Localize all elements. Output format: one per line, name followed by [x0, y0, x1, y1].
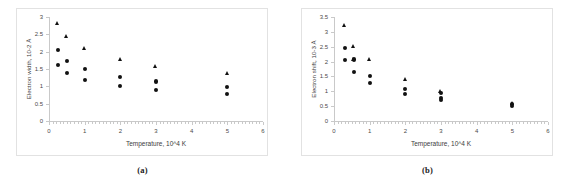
x-axis-minor-tick [213, 122, 214, 124]
x-axis-minor-tick [227, 122, 228, 125]
triangle-marker-icon [225, 71, 229, 75]
x-axis-minor-tick [484, 122, 485, 124]
x-axis-minor-tick [355, 122, 356, 124]
x-axis-minor-tick [420, 122, 421, 124]
circle-marker-icon [65, 71, 69, 75]
x-axis-minor-tick [544, 122, 545, 124]
x-axis-minor-tick [334, 122, 335, 125]
triangle-marker-icon [351, 44, 355, 48]
x-axis-minor-tick [131, 122, 132, 124]
x-axis-minor-tick [199, 122, 200, 124]
x-axis-tick-label: 0 [324, 128, 344, 134]
panel-b-caption: (b) [285, 165, 570, 175]
x-axis-minor-tick [430, 122, 431, 124]
circle-marker-icon [352, 57, 356, 61]
x-axis-minor-tick [363, 122, 364, 124]
x-axis-minor-tick [60, 122, 61, 124]
x-axis-minor-tick [170, 122, 171, 124]
x-axis-label: Temperature, 10^4 K [49, 140, 263, 148]
x-axis-minor-tick [537, 122, 538, 124]
x-axis-minor-tick [380, 122, 381, 124]
panel-b-frame: 00.511.522.533.50123456Temperature, 10^4… [301, 8, 553, 156]
x-axis-tick-label: 2 [110, 128, 130, 134]
x-axis-tick-label: 2 [395, 128, 415, 134]
x-axis-minor-tick [388, 122, 389, 124]
circle-marker-icon [403, 87, 407, 91]
x-axis-minor-tick [181, 122, 182, 124]
x-axis-minor-tick [512, 122, 513, 125]
y-axis-tick [331, 17, 334, 18]
triangle-marker-icon [55, 21, 59, 25]
x-axis-minor-tick [338, 122, 339, 124]
circle-marker-icon [56, 63, 60, 67]
x-axis-minor-tick [81, 122, 82, 124]
x-axis-minor-tick [149, 122, 150, 124]
x-axis-minor-tick [259, 122, 260, 124]
x-axis-minor-tick [53, 122, 54, 124]
panel-b-plot-area: 00.511.522.533.50123456Temperature, 10^4… [334, 17, 548, 121]
x-axis-tick-label: 5 [502, 128, 522, 134]
x-axis-minor-tick [256, 122, 257, 124]
circle-marker-icon [118, 75, 122, 79]
x-axis-minor-tick [509, 122, 510, 124]
x-axis-minor-tick [527, 122, 528, 124]
y-axis-tick [46, 86, 49, 87]
x-axis-minor-tick [192, 122, 193, 125]
panel-a: 00.511.522.530123456Temperature, 10^4 KE… [0, 0, 285, 190]
x-axis-minor-tick [402, 122, 403, 124]
x-axis-minor-tick [263, 122, 264, 125]
x-axis-minor-tick [234, 122, 235, 124]
triangle-marker-icon [82, 46, 86, 50]
y-axis-line [334, 17, 335, 121]
figure-container: 00.511.522.530123456Temperature, 10^4 KE… [0, 0, 571, 190]
x-axis-minor-tick [142, 122, 143, 124]
x-axis-minor-tick [427, 122, 428, 124]
x-axis-minor-tick [391, 122, 392, 124]
x-axis-minor-tick [412, 122, 413, 124]
x-axis-minor-tick [491, 122, 492, 124]
x-axis-minor-tick [352, 122, 353, 124]
x-axis-minor-tick [395, 122, 396, 124]
x-axis-minor-tick [487, 122, 488, 124]
x-axis-minor-tick [377, 122, 378, 124]
x-axis-minor-tick [398, 122, 399, 124]
y-axis-label: Electron width, 10-2 Å [25, 17, 32, 121]
circle-marker-icon [439, 98, 443, 102]
y-axis-tick [331, 91, 334, 92]
x-axis-minor-tick [462, 122, 463, 124]
x-axis-minor-tick [252, 122, 253, 124]
x-axis-minor-tick [224, 122, 225, 124]
y-axis-label: Electron shift, 10-3 Å [310, 17, 317, 121]
x-axis-minor-tick [473, 122, 474, 124]
x-axis-minor-tick [56, 122, 57, 124]
x-axis-minor-tick [519, 122, 520, 124]
x-axis-minor-tick [156, 122, 157, 125]
panel-a-caption: (a) [0, 165, 285, 175]
x-axis-minor-tick [127, 122, 128, 124]
y-axis-tick [331, 32, 334, 33]
x-axis-minor-tick [541, 122, 542, 124]
circle-marker-icon [225, 92, 229, 96]
x-axis-minor-tick [516, 122, 517, 124]
x-axis-minor-tick [495, 122, 496, 124]
x-axis-minor-tick [174, 122, 175, 124]
x-axis-minor-tick [455, 122, 456, 124]
x-axis-minor-tick [249, 122, 250, 124]
circle-marker-icon [352, 70, 356, 74]
x-axis-minor-tick [480, 122, 481, 124]
x-axis-minor-tick [437, 122, 438, 124]
x-axis-minor-tick [434, 122, 435, 124]
x-axis-minor-tick [160, 122, 161, 124]
x-axis-minor-tick [167, 122, 168, 124]
x-axis-minor-tick [188, 122, 189, 124]
x-axis-minor-tick [92, 122, 93, 124]
circle-marker-icon [118, 84, 122, 88]
x-axis-minor-tick [242, 122, 243, 124]
x-axis-minor-tick [502, 122, 503, 124]
x-axis-minor-tick [220, 122, 221, 124]
x-axis-minor-tick [384, 122, 385, 124]
x-axis-minor-tick [49, 122, 50, 125]
x-axis-minor-tick [452, 122, 453, 124]
x-axis-minor-tick [498, 122, 499, 124]
x-axis-minor-tick [548, 122, 549, 125]
